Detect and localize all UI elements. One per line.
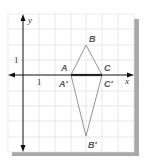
- y-tick-label-1: 1: [14, 55, 19, 65]
- coordinate-plane-figure: y x 1 1 B A C A′ C′ B′: [0, 0, 148, 162]
- point-label-b-prime: B′: [88, 140, 97, 150]
- y-axis-label: y: [27, 15, 32, 25]
- point-label-a: A: [60, 63, 68, 73]
- panel-shadow-bottom: [12, 152, 139, 156]
- coordinate-plane-svg: y x 1 1 B A C A′ C′ B′: [0, 0, 148, 162]
- point-label-a-prime: A′: [58, 79, 68, 89]
- x-axis-label: x: [124, 76, 129, 86]
- point-label-b: B: [89, 34, 96, 44]
- panel-shadow-right: [134, 19, 139, 156]
- point-label-c-prime: C′: [104, 79, 113, 89]
- x-tick-label-1: 1: [37, 77, 42, 87]
- point-label-c: C: [104, 63, 111, 73]
